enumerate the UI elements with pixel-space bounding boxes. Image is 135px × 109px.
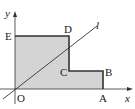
shaded-region [15, 36, 103, 89]
point-label-d: D [64, 23, 72, 35]
diagram-canvas: y x O A B C D E l [0, 0, 135, 109]
x-axis-arrow-icon [127, 87, 133, 91]
point-label-e: E [5, 30, 12, 42]
origin-label: O [17, 92, 25, 104]
y-axis-label: y [4, 7, 10, 19]
point-label-c: C [60, 66, 67, 78]
y-axis-arrow-icon [13, 11, 17, 17]
line-label-l: l [96, 19, 99, 31]
point-label-b: B [105, 66, 112, 78]
point-label-a: A [99, 92, 107, 104]
x-axis-label: x [124, 92, 130, 104]
